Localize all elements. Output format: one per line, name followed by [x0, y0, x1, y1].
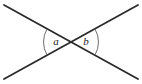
angle-label-b: b — [83, 35, 89, 47]
geometry-figure: a b — [0, 0, 142, 84]
figure-canvas: a b — [0, 0, 142, 84]
angle-label-a: a — [53, 35, 59, 47]
